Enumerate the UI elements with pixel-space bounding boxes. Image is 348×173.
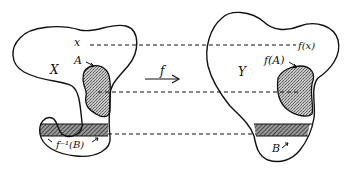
point-x-label: x xyxy=(74,36,81,49)
function-mapping-diagram: x X A f⁻¹(B) f f(x) f(A) Y B xyxy=(0,0,348,173)
set-y-outline xyxy=(207,12,339,161)
set-x-label: X xyxy=(49,63,59,77)
subset-b-label: B xyxy=(271,142,280,155)
subset-b-band xyxy=(254,124,310,136)
map-f-label: f xyxy=(159,64,167,78)
set-y xyxy=(207,12,339,161)
preimage-left-arrow xyxy=(48,139,52,142)
image-a-region xyxy=(277,66,313,116)
set-y-label: Y xyxy=(238,65,247,79)
subset-a-region xyxy=(83,66,110,117)
fa-label: f(A) xyxy=(263,54,285,67)
preimage-label: f⁻¹(B) xyxy=(55,139,84,150)
fx-label: f(x) xyxy=(297,40,315,51)
subset-a-label: A xyxy=(73,54,82,67)
preimage-band xyxy=(40,124,108,136)
